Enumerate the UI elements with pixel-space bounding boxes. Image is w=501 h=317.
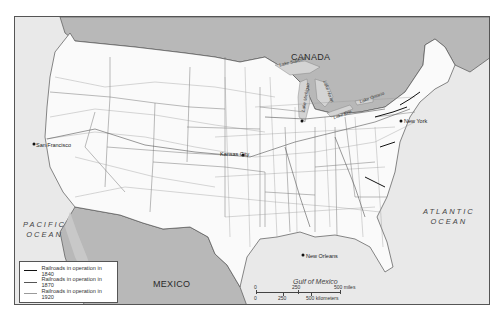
legend-label-1920: Railroads in operation in 1920 [41, 288, 113, 300]
new-york-label: New York [404, 118, 427, 124]
scale-miles-250: 250 [292, 284, 300, 290]
legend-swatch-1920 [24, 293, 37, 294]
mexico-label: MEXICO [153, 279, 190, 289]
legend-label-1870: Railroads in operation in 1870 [41, 276, 113, 288]
scale-miles-500: 500 miles [334, 284, 355, 290]
atlantic-ocean-label: ATLANTIC OCEAN [423, 207, 475, 227]
legend-item-1840: Railroads in operation in 1840 [24, 265, 113, 277]
legend-swatch-1840 [24, 270, 37, 271]
scale-tick-0 [256, 290, 257, 294]
legend-label-1840: Railroads in operation in 1840 [41, 265, 113, 277]
legend-item-1870: Railroads in operation in 1870 [24, 277, 113, 289]
scale-tick-250mi [298, 290, 299, 294]
kansas-city-label: Kansas City [220, 151, 249, 157]
atlantic-ocean-line1: ATLANTIC [423, 207, 475, 217]
scale-tick-500mi [340, 290, 341, 294]
atlantic-ocean-line2: OCEAN [423, 217, 475, 227]
scale-km-500: 500 kilometers [306, 295, 339, 301]
legend-swatch-1870 [24, 282, 37, 283]
scale-km-250: 250 [278, 295, 286, 301]
san-francisco-label: San Francisco [36, 142, 71, 148]
pacific-ocean-line2: OCEAN [23, 230, 66, 240]
new-orleans-label: New Orleans [306, 253, 338, 259]
legend-item-1920: Railroads in operation in 1920 [24, 288, 113, 300]
pacific-ocean-label: PACIFIC OCEAN [23, 220, 66, 240]
city-dot-new-orleans [302, 254, 305, 257]
pacific-ocean-line1: PACIFIC [23, 220, 66, 230]
city-dot-new-york [400, 120, 403, 123]
city-dot-chicago [301, 120, 304, 123]
map-legend: Railroads in operation in 1840 Railroads… [19, 261, 118, 303]
scale-km-0: 0 [254, 295, 257, 301]
scale-bar: 0 250 500 miles 0 250 500 kilometers [254, 283, 364, 303]
